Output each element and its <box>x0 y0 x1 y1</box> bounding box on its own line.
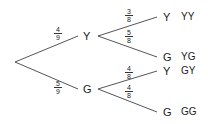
node-y-y: Y <box>163 11 170 23</box>
prob-root-g: 5 9 <box>54 80 62 95</box>
outcome-gy: GY <box>181 65 195 77</box>
node-g-g: G <box>163 106 172 118</box>
prob-y-y: 3 8 <box>125 8 133 23</box>
outcome-yy: YY <box>181 11 194 23</box>
prob-root-y: 4 9 <box>54 26 62 41</box>
prob-g-g: 4 8 <box>125 84 133 99</box>
node-y-g: G <box>163 51 172 63</box>
prob-y-g: 5 8 <box>125 29 133 44</box>
branch-root-g <box>15 62 78 89</box>
outcome-yg: YG <box>181 51 195 63</box>
tree-branches <box>0 0 208 124</box>
probability-tree-diagram: 4 9 5 9 Y G 3 8 5 8 4 8 4 8 Y G Y G YY Y… <box>0 0 208 124</box>
node-g-y: Y <box>163 65 170 77</box>
node-y: Y <box>83 30 90 42</box>
prob-g-y: 4 8 <box>125 65 133 80</box>
branch-root-y <box>15 36 78 62</box>
outcome-gg: GG <box>181 106 197 118</box>
node-g: G <box>83 83 92 95</box>
